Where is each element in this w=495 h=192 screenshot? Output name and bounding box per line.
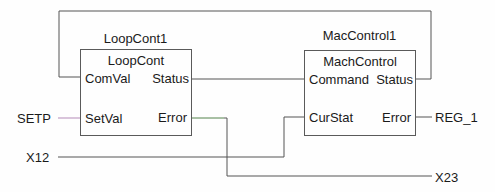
function-block-diagram: LoopCont1 LoopCont ComVal Status SetVal … (0, 0, 495, 192)
block-type-name: LoopCont (81, 53, 191, 68)
input-port-setval[interactable]: SetVal (85, 111, 122, 126)
output-port-status[interactable]: Status (152, 71, 189, 86)
signal-x23[interactable]: X23 (435, 170, 458, 185)
input-port-comval[interactable]: ComVal (85, 71, 130, 86)
input-port-command[interactable]: Command (309, 72, 369, 87)
machcontrol-block[interactable]: MachControl Command Status CurStat Error (304, 50, 416, 136)
signal-setp[interactable]: SETP (17, 111, 51, 126)
block-instance-name: LoopCont1 (80, 31, 191, 46)
loopcont-block[interactable]: LoopCont ComVal Status SetVal Error (80, 49, 192, 136)
input-port-curstat[interactable]: CurStat (309, 110, 353, 125)
wire-layer (0, 0, 495, 192)
signal-x12[interactable]: X12 (26, 150, 49, 165)
block-instance-name: MacControl1 (304, 28, 415, 43)
output-port-error[interactable]: Error (382, 110, 411, 125)
signal-reg1[interactable]: REG_1 (435, 110, 478, 125)
output-port-error[interactable]: Error (158, 110, 187, 125)
block-type-name: MachControl (305, 54, 415, 69)
output-port-status[interactable]: Status (376, 72, 413, 87)
